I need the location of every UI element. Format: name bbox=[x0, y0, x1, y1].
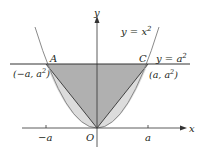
line-label: y = a2 bbox=[155, 52, 187, 64]
axis-x-label: x bbox=[189, 123, 195, 134]
point-A-label: A bbox=[49, 53, 57, 64]
axis-y-label: y bbox=[93, 7, 100, 18]
coord-A-label: (−a, a2) bbox=[13, 67, 50, 79]
coord-C-label: (a, a2) bbox=[149, 68, 178, 80]
x-axis-arrow-icon bbox=[180, 126, 187, 131]
origin-label: O bbox=[86, 132, 94, 143]
tick-pos-a-label: a bbox=[145, 132, 151, 143]
tick-neg-a-label: −a bbox=[38, 132, 52, 143]
curve-label: y = x2 bbox=[120, 25, 152, 37]
point-C-label: C bbox=[139, 53, 147, 64]
parabola-triangle-diagram: y x O −a a y = x2 y = a2 A C (−a, a2) (a… bbox=[0, 0, 198, 155]
